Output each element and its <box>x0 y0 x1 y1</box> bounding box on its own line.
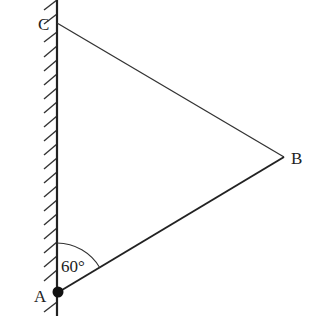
angle-label: 60° <box>61 257 85 276</box>
label-a: A <box>34 287 47 306</box>
pivot-a <box>53 287 64 298</box>
segment-cb <box>57 23 284 157</box>
label-c: C <box>38 15 49 34</box>
segment-ab <box>57 157 284 293</box>
label-b: B <box>291 149 302 168</box>
wall-hatching <box>44 0 57 312</box>
diagram: C B A 60° <box>0 0 328 324</box>
